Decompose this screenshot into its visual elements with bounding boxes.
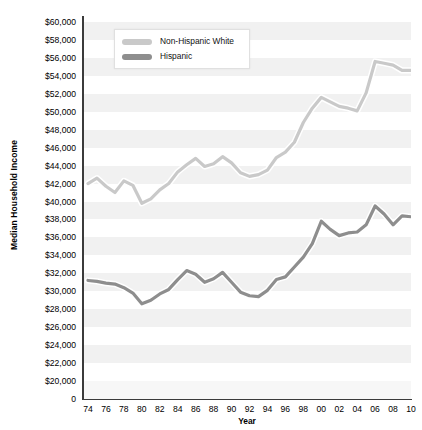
y-tick-label: $26,000 — [0, 322, 76, 332]
y-tick-label: $24,000 — [0, 340, 76, 350]
y-tick-label: $52,000 — [0, 89, 76, 99]
y-tick-label: $34,000 — [0, 250, 76, 260]
y-axis-line — [82, 16, 84, 400]
x-axis-title-text: Year — [238, 416, 256, 426]
y-tick-label: $30,000 — [0, 286, 76, 296]
legend-swatch-non-hispanic-white — [122, 39, 152, 45]
y-tick-label: $50,000 — [0, 107, 76, 117]
y-tick-label: $60,000 — [0, 17, 76, 27]
series-halo — [88, 206, 411, 304]
chart-legend: Non-Hispanic White Hispanic — [114, 29, 250, 69]
y-tick-label: $42,000 — [0, 179, 76, 189]
y-tick-label: $56,000 — [0, 53, 76, 63]
x-tick-label: 10 — [400, 402, 422, 416]
y-tick-label: $32,000 — [0, 268, 76, 278]
y-tick-label: $20,000 — [0, 376, 76, 386]
y-tick-label: $48,000 — [0, 125, 76, 135]
y-axis-tick-labels: $60,000$58,000$56,000$54,000$52,000$50,0… — [0, 0, 80, 410]
x-axis-title: Year — [0, 416, 422, 426]
y-tick-label: $40,000 — [0, 197, 76, 207]
y-tick-label: $36,000 — [0, 232, 76, 242]
y-tick-label: $38,000 — [0, 214, 76, 224]
y-tick-label: $44,000 — [0, 161, 76, 171]
series-halo — [88, 61, 411, 203]
series-line-non-hispanic-white — [88, 61, 411, 203]
series-lines — [83, 16, 411, 399]
y-tick-label: $58,000 — [0, 35, 76, 45]
legend-swatch-hispanic — [122, 54, 152, 60]
y-tick-label: $46,000 — [0, 143, 76, 153]
y-tick-label: $22,000 — [0, 358, 76, 368]
legend-label-non-hispanic-white: Non-Hispanic White — [160, 35, 234, 48]
x-axis-line — [83, 399, 412, 400]
y-tick-label: $54,000 — [0, 71, 76, 81]
series-line-hispanic — [88, 206, 411, 304]
y-tick-label: $28,000 — [0, 304, 76, 314]
legend-label-hispanic: Hispanic — [160, 50, 192, 63]
plot-area — [83, 16, 411, 399]
chart-figure: Median Household Income $60,000$58,000$5… — [0, 0, 422, 430]
